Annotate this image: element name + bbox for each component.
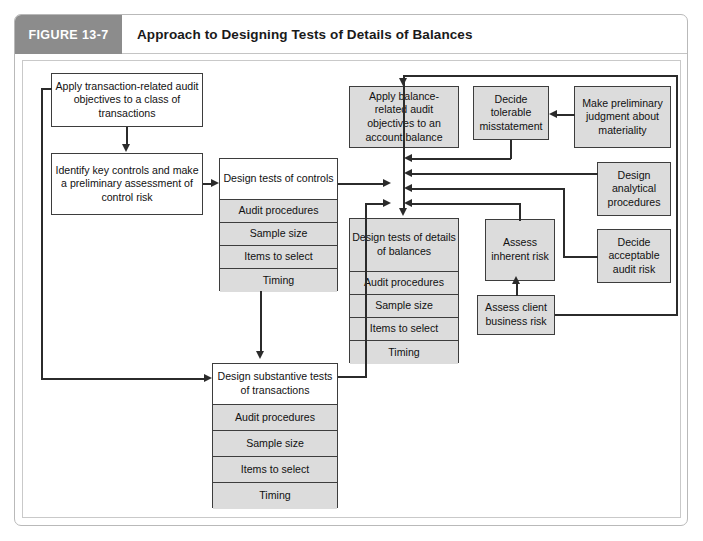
arrowhead-inherent-risk-to-trunk <box>404 199 412 207</box>
arrowhead-materiality-to-tolerable <box>549 110 557 118</box>
connector-acceptable-risk-to-trunk <box>411 188 564 190</box>
stack-header-tests-of-controls: Design tests of controls <box>220 159 337 200</box>
node-design-analytical-procedures: Design analytical procedures <box>597 162 671 216</box>
stack-row-label: Items to select <box>241 463 309 477</box>
arrowhead-substantive-to-trunk <box>383 199 391 207</box>
node-decide-acceptable-audit-risk: Decide acceptable audit risk <box>597 229 671 283</box>
figure-root: FIGURE 13-7 Approach to Designing Tests … <box>0 0 703 541</box>
node-decide-tolerable-misstatement: Decide tolerable misstatement <box>473 86 549 140</box>
stack-row-audit-procedures: Audit procedures <box>220 200 337 223</box>
connector-balance-trunk-top <box>403 75 405 87</box>
node-identify-key-controls: Identify key controls and make a prelimi… <box>51 153 203 215</box>
node-make-preliminary-judgment-label: Make preliminary judgment about material… <box>578 97 667 138</box>
connector-substantive-right-segment <box>338 376 367 378</box>
node-decide-acceptable-audit-risk-label: Decide acceptable audit risk <box>601 236 667 277</box>
stack-row-items-to-select: Items to select <box>213 457 337 483</box>
stack-row-audit-procedures: Audit procedures <box>213 405 337 431</box>
node-identify-key-controls-label: Identify key controls and make a prelimi… <box>55 164 199 205</box>
connector-analytical-to-trunk <box>411 173 598 175</box>
connector-loop-top-segment <box>41 88 52 90</box>
node-assess-inherent-risk: Assess inherent risk <box>485 219 555 281</box>
stack-row-timing: Timing <box>220 269 337 292</box>
arrowhead-transaction-to-controls <box>122 144 130 152</box>
stack-row-label: Timing <box>388 346 419 360</box>
figure-number-tag: FIGURE 13-7 <box>15 15 122 54</box>
stack-row-label: Sample size <box>246 437 304 451</box>
stack-row-label: Sample size <box>250 227 308 241</box>
stack-header-label: Design substantive tests of transactions <box>213 370 337 397</box>
stack-header-label: Design tests of controls <box>223 172 333 186</box>
stack-row-timing: Timing <box>213 483 337 509</box>
connector-materiality-to-tolerable <box>556 114 575 116</box>
connector-substantive-to-trunk <box>365 203 384 205</box>
arrowhead-tests-to-substantive <box>256 351 264 359</box>
stack-design-tests-of-controls: Design tests of controls Audit procedure… <box>219 158 338 291</box>
stack-row-sample-size: Sample size <box>213 431 337 457</box>
stack-row-sample-size: Sample size <box>220 223 337 246</box>
connector-far-right-vertical <box>676 75 678 315</box>
stack-row-label: Timing <box>263 274 294 288</box>
stack-row-label: Audit procedures <box>235 411 315 425</box>
figure-number-text: FIGURE 13-7 <box>28 28 108 42</box>
arrowhead-acceptable-risk-to-trunk <box>404 184 412 192</box>
connector-substantive-vertical <box>365 203 367 377</box>
node-assess-client-business-risk: Assess client business risk <box>477 295 555 335</box>
arrowhead-tolerable-to-trunk <box>404 154 412 162</box>
node-design-analytical-procedures-label: Design analytical procedures <box>601 169 667 210</box>
connector-tests-to-substantive <box>260 291 262 352</box>
connector-acceptable-risk-left <box>563 256 598 258</box>
stack-design-substantive-tests: Design substantive tests of transactions… <box>212 363 338 508</box>
arrowhead-trunk-to-details <box>399 208 407 216</box>
connector-loop-vertical <box>41 88 43 379</box>
arrowhead-controls-to-tests <box>211 179 219 187</box>
connector-transaction-to-controls <box>126 127 128 145</box>
connector-tests-of-controls-to-trunk <box>338 183 384 185</box>
stack-row-label: Audit procedures <box>238 204 318 218</box>
stack-row-label: Sample size <box>375 299 433 313</box>
connector-client-risk-to-inherent <box>516 283 518 296</box>
node-apply-transaction-objectives-label: Apply transaction-related audit objectiv… <box>55 80 199 121</box>
connector-controls-to-tests <box>203 183 211 185</box>
arrowhead-tests-of-controls-to-trunk <box>383 179 391 187</box>
arrowhead-analytical-to-trunk <box>404 169 412 177</box>
connector-tolerable-down <box>510 140 512 159</box>
connector-top-right-horizontal <box>403 75 677 77</box>
stack-row-label: Audit procedures <box>364 276 444 290</box>
figure-title-text: Approach to Designing Tests of Details o… <box>137 27 473 42</box>
stack-row-label: Timing <box>259 489 290 503</box>
stack-header-substantive-tests: Design substantive tests of transactions <box>213 364 337 405</box>
node-assess-inherent-risk-label: Assess inherent risk <box>489 236 551 263</box>
node-make-preliminary-judgment: Make preliminary judgment about material… <box>574 86 671 148</box>
connector-client-risk-to-far-right <box>555 314 678 316</box>
stack-row-label: Items to select <box>370 322 438 336</box>
node-decide-tolerable-misstatement-label: Decide tolerable misstatement <box>477 93 545 134</box>
connector-inherent-risk-to-trunk <box>411 203 521 205</box>
connector-tolerable-to-trunk <box>411 158 511 160</box>
connector-loop-bottom-segment <box>41 378 204 380</box>
arrowhead-loop-to-substantive <box>204 374 212 382</box>
figure-title: Approach to Designing Tests of Details o… <box>137 15 473 54</box>
stack-row-label: Items to select <box>244 250 312 264</box>
connector-inherent-risk-vertical <box>519 203 521 221</box>
node-assess-client-business-risk-label: Assess client business risk <box>481 301 551 328</box>
arrowhead-client-risk-to-inherent <box>512 276 520 284</box>
node-apply-transaction-objectives: Apply transaction-related audit objectiv… <box>51 73 203 127</box>
connector-acceptable-risk-vertical <box>563 188 565 257</box>
diagram-panel: Apply transaction-related audit objectiv… <box>22 60 681 518</box>
stack-row-items-to-select: Items to select <box>220 246 337 269</box>
